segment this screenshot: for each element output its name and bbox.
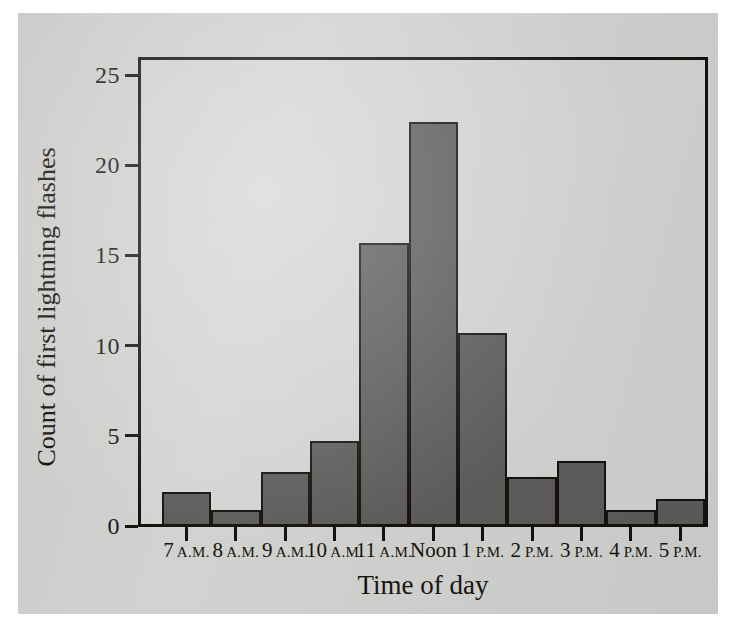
bar xyxy=(211,510,260,526)
x-axis-tick-label: 3 P.M. xyxy=(560,540,603,561)
x-axis-tick xyxy=(382,527,385,541)
y-axis-tick xyxy=(125,525,138,528)
y-axis-tick xyxy=(125,254,138,257)
x-axis-tick xyxy=(284,527,287,541)
x-axis-tick-label: 4 P.M. xyxy=(609,540,652,561)
x-axis-tick-label: 1 P.M. xyxy=(461,540,504,561)
scanned-page-area: Count of first lightning flashes 0510152… xyxy=(18,13,718,614)
x-axis-tick-label: 7 A.M. xyxy=(163,540,210,561)
y-axis-tick-label: 15 xyxy=(95,243,120,267)
y-axis-tick xyxy=(125,164,138,167)
x-axis-tick xyxy=(481,527,484,541)
x-axis-tick-label: 5 P.M. xyxy=(659,540,702,561)
bar xyxy=(409,122,458,526)
x-axis-tick-label: 11 A.M. xyxy=(356,540,412,561)
x-axis-tick xyxy=(234,527,237,541)
x-axis-tick xyxy=(629,527,632,541)
y-axis-tick xyxy=(125,344,138,347)
x-axis-tick xyxy=(531,527,534,541)
x-axis-tick-label: Noon xyxy=(410,540,457,561)
y-axis-tick xyxy=(125,434,138,437)
y-axis-tick-label: 5 xyxy=(108,424,121,448)
y-axis-tick-label: 0 xyxy=(108,514,121,538)
x-axis-tick xyxy=(185,527,188,541)
x-axis-title: Time of day xyxy=(138,570,708,601)
bar xyxy=(606,510,655,526)
bar xyxy=(310,441,359,526)
x-axis-tick-label: 9 A.M. xyxy=(262,540,309,561)
figure-page: Count of first lightning flashes 0510152… xyxy=(0,0,732,627)
y-axis-tick-label: 20 xyxy=(95,153,120,177)
bar-series xyxy=(141,60,705,526)
bar xyxy=(162,492,211,526)
x-axis-tick xyxy=(580,527,583,541)
y-axis-title: Count of first lightning flashes xyxy=(32,97,62,517)
x-axis-tick-label: 8 A.M. xyxy=(213,540,260,561)
y-axis-tick-label: 10 xyxy=(95,334,120,358)
bar xyxy=(656,499,705,526)
bar xyxy=(557,461,606,526)
x-axis-tick-label: 10 A.M. xyxy=(306,540,363,561)
bar xyxy=(261,472,310,526)
x-axis-tick xyxy=(679,527,682,541)
bar xyxy=(458,333,507,526)
x-axis-tick-label: 2 P.M. xyxy=(511,540,554,561)
bar xyxy=(507,477,556,526)
bar xyxy=(359,243,408,526)
y-axis-tick-label: 25 xyxy=(95,63,120,87)
y-axis-tick xyxy=(125,74,138,77)
x-axis-tick xyxy=(333,527,336,541)
